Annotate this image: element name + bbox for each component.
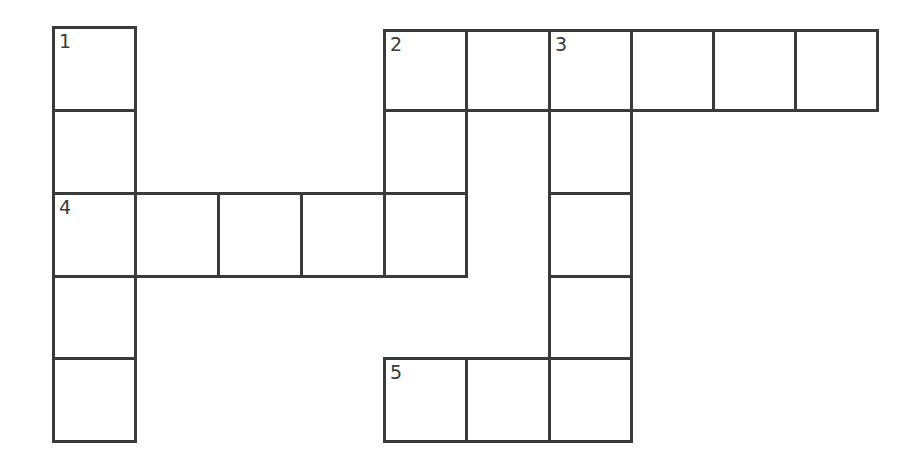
crossword-cell[interactable] (383, 109, 468, 195)
crossword-cell[interactable] (52, 357, 137, 443)
crossword-cell[interactable] (548, 357, 633, 443)
crossword-cell[interactable]: 4 (52, 192, 137, 278)
crossword-grid: 14235 (0, 0, 917, 475)
crossword-cell[interactable] (548, 109, 633, 195)
crossword-cell[interactable] (383, 192, 468, 278)
crossword-cell[interactable] (217, 192, 303, 278)
clue-number: 2 (390, 34, 402, 54)
crossword-cell[interactable]: 1 (52, 26, 137, 112)
crossword-cell[interactable] (52, 275, 137, 360)
crossword-cell[interactable] (52, 109, 137, 195)
crossword-cell[interactable] (465, 29, 551, 112)
crossword-cell[interactable]: 3 (548, 29, 633, 112)
crossword-cell[interactable] (300, 192, 386, 278)
crossword-cell[interactable] (465, 357, 551, 443)
clue-number: 1 (59, 31, 71, 51)
crossword-cell[interactable]: 5 (383, 357, 468, 443)
clue-number: 4 (59, 197, 71, 217)
crossword-cell[interactable] (134, 192, 220, 278)
crossword-cell[interactable] (630, 29, 715, 112)
clue-number: 3 (555, 34, 567, 54)
crossword-cell[interactable] (548, 192, 633, 278)
crossword-cell[interactable] (548, 275, 633, 360)
crossword-cell[interactable] (794, 29, 879, 112)
crossword-cell[interactable] (712, 29, 797, 112)
clue-number: 5 (390, 362, 402, 382)
crossword-cell[interactable]: 2 (383, 29, 468, 112)
